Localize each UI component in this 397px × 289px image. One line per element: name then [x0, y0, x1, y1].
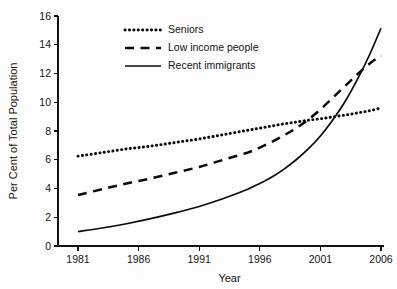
x-tick-label: 2001: [309, 253, 333, 265]
y-tick-label: 14: [39, 38, 51, 50]
y-tick-label: 0: [45, 240, 51, 252]
x-tick-label: 1991: [188, 253, 212, 265]
legend-label: Seniors: [168, 23, 204, 35]
y-tick-label: 16: [39, 10, 51, 22]
y-tick-label: 2: [45, 211, 51, 223]
y-axis-ticks: 0246810121416: [39, 10, 58, 252]
y-axis-title: Per Cent of Total Population: [7, 63, 19, 200]
x-tick-label: 1986: [127, 253, 151, 265]
y-tick-label: 6: [45, 153, 51, 165]
series-line-low-income-people: [78, 56, 381, 195]
x-tick-label: 1996: [248, 253, 272, 265]
y-tick-label: 8: [45, 125, 51, 137]
line-chart: 0246810121416 198119861991199620012006 S…: [0, 0, 397, 289]
legend-label: Low income people: [168, 41, 259, 53]
y-tick-label: 12: [39, 67, 51, 79]
y-tick-label: 4: [45, 182, 51, 194]
legend-label: Recent immigrants: [168, 59, 256, 71]
x-axis-title: Year: [218, 272, 241, 284]
x-tick-label: 1981: [66, 253, 90, 265]
x-axis-ticks: 198119861991199620012006: [66, 246, 393, 265]
chart-canvas: 0246810121416 198119861991199620012006 S…: [0, 0, 397, 289]
y-tick-label: 10: [39, 96, 51, 108]
x-tick-label: 2006: [369, 253, 393, 265]
chart-legend: SeniorsLow income peopleRecent immigrant…: [125, 23, 259, 71]
